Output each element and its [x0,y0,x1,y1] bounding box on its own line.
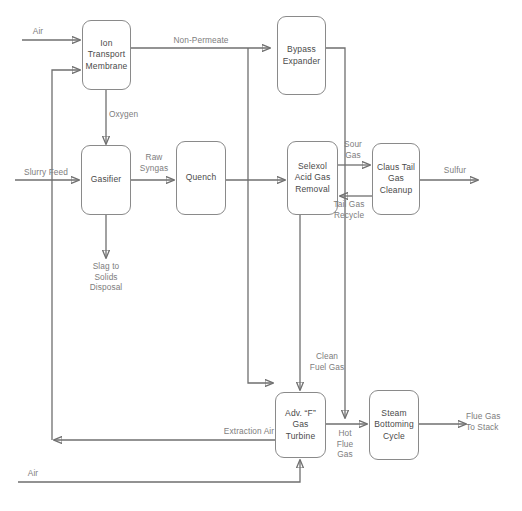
node-adv-f-gas-turbine[interactable]: Adv. “F” Gas Turbine [275,392,326,458]
node-bypass-expander[interactable]: Bypass Expander [277,16,326,95]
label-air-top: Air [25,26,51,37]
label-hot-flue-gas: Hot Flue Gas [332,428,358,460]
label-air-bottom: Air [20,468,46,479]
node-claus-tail-gas-cleanup[interactable]: Claus Tail Gas Cleanup [372,143,420,215]
label-oxygen: Oxygen [109,109,149,120]
label-flue-gas-to-stack: Flue Gas To Stack [466,411,516,432]
node-label: Bypass Expander [281,44,323,67]
label-extraction-air: Extraction Air [214,426,284,437]
node-steam-bottoming-cycle[interactable]: Steam Bottoming Cycle [369,390,419,460]
node-label: Steam Bottoming Cycle [372,408,416,443]
node-quench[interactable]: Quench [176,141,226,215]
node-label: Ion Transport Membrane [84,38,130,73]
label-clean-fuel-gas: Clean Fuel Gas [304,351,350,372]
label-non-permeate: Non-Permeate [165,35,237,46]
label-sour-gas: Sour Gas [336,139,370,160]
node-ion-transport-membrane[interactable]: Ion Transport Membrane [82,20,131,90]
node-label: Claus Tail Gas Cleanup [375,162,417,197]
node-label: Adv. “F” Gas Turbine [283,408,318,443]
label-slag-to-solids-disposal: Slag to Solids Disposal [82,261,130,293]
wire-air-bottom-to-turbine [18,460,300,482]
node-gasifier[interactable]: Gasifier [81,145,131,215]
label-slurry-feed: Slurry Feed [17,167,75,178]
node-label: Quench [184,172,219,184]
wire-extraction-air-to-itm [52,70,80,440]
label-raw-syngas: Raw Syngas [134,152,174,173]
process-flow-diagram: Ion Transport Membrane Bypass Expander G… [0,0,522,511]
label-sulfur: Sulfur [437,165,473,176]
node-label: Gasifier [89,174,124,186]
label-tail-gas-recycle: Tail Gas Recycle [325,199,373,220]
node-label: Selexol Acid Gas Removal [293,161,333,196]
wire-non-permeate-branch-to-turbine [248,48,273,383]
